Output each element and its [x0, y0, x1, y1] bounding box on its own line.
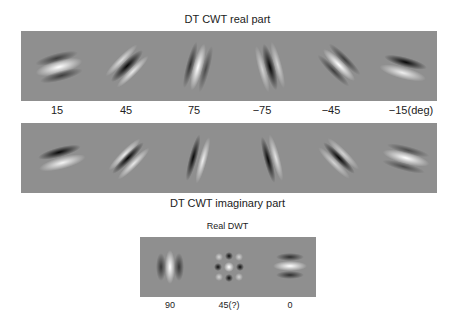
- dtcwt-imaginary-title: DT CWT imaginary part: [0, 197, 455, 209]
- angle-label-75: 75: [164, 104, 224, 116]
- dtcwt-real-panel: [21, 31, 437, 101]
- dwt-label-90: 90: [145, 300, 195, 310]
- dtcwt-imaginary-panel: [21, 123, 437, 193]
- angle-label-15: 15: [27, 104, 87, 116]
- real-dwt-panel: [140, 237, 316, 297]
- wavelet-15-real: [32, 47, 86, 86]
- dwt-label-0: 0: [265, 300, 315, 310]
- angle-label-neg45: −45: [301, 104, 361, 116]
- real-dwt-title: Real DWT: [0, 221, 455, 231]
- angle-label-neg75: −75: [232, 104, 292, 116]
- angle-label-neg15: −15(deg): [376, 104, 446, 116]
- angle-label-45: 45: [96, 104, 156, 116]
- dwt-label-45: 45(?): [204, 300, 254, 310]
- dtcwt-real-title: DT CWT real part: [0, 13, 455, 25]
